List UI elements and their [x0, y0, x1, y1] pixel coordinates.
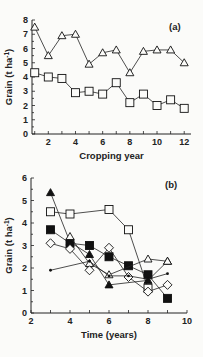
- dot-marker: [147, 278, 150, 281]
- dot-marker: [49, 269, 52, 272]
- y-tick-label: 6: [23, 44, 28, 54]
- square-filled-marker: [164, 294, 172, 302]
- y-tick-label: 2: [22, 263, 27, 273]
- dot-marker: [88, 260, 91, 263]
- series-open-triangle: [66, 233, 172, 278]
- y-axis-label: Grain (t ha-1): [3, 49, 14, 105]
- triangle-open-marker: [167, 46, 175, 53]
- square-open-marker: [139, 90, 147, 98]
- panel-label: (a): [169, 21, 181, 32]
- x-tick-label: 6: [100, 137, 105, 147]
- y-tick-label: 2: [23, 101, 28, 111]
- panel-a-chart: 01234567824681012Cropping yearGrain (t h…: [3, 15, 191, 161]
- triangle-open-marker: [44, 52, 52, 59]
- triangle-open-marker: [85, 60, 93, 67]
- series-line: [35, 27, 184, 73]
- y-tick-label: 5: [22, 196, 27, 206]
- triangle-filled-marker: [47, 189, 55, 196]
- y-tick-label: 3: [22, 241, 27, 251]
- x-axis-label: Cropping year: [79, 150, 144, 161]
- square-open-marker: [105, 206, 113, 214]
- x-tick-label: 6: [106, 316, 111, 326]
- square-open-marker: [126, 99, 134, 107]
- triangle-open-marker: [71, 30, 79, 37]
- y-tick-label: 4: [22, 218, 27, 228]
- square-filled-marker: [86, 242, 94, 250]
- y-tick-label: 0: [23, 129, 28, 139]
- triangle-open-marker: [144, 255, 152, 262]
- square-open-marker: [112, 79, 120, 87]
- square-filled-marker: [47, 226, 55, 234]
- chart-figure: 01234567824681012Cropping yearGrain (t h…: [0, 0, 203, 357]
- y-tick-label: 3: [23, 86, 28, 96]
- x-tick-label: 10: [182, 316, 192, 326]
- square-open-marker: [153, 102, 161, 110]
- square-open-marker: [31, 69, 39, 77]
- y-tick-label: 8: [23, 15, 28, 25]
- series-line: [70, 237, 168, 275]
- triangle-filled-marker: [86, 251, 94, 258]
- series-open-triangle: [31, 23, 188, 76]
- y-tick-label: 1: [22, 286, 27, 296]
- y-tick-label: 1: [23, 115, 28, 125]
- diamond-marker: [46, 239, 55, 248]
- x-tick-label: 4: [67, 316, 72, 326]
- square-open-marker: [167, 96, 175, 104]
- square-open-marker: [58, 74, 66, 82]
- x-tick-label: 2: [28, 316, 33, 326]
- square-open-marker: [85, 87, 93, 95]
- y-tick-label: 0: [22, 308, 27, 318]
- y-tick-label: 4: [23, 72, 28, 82]
- dot-marker: [166, 272, 169, 275]
- diamond-marker: [163, 280, 172, 289]
- panel-b-chart: 0123456246810Time (years)Grain (t ha-1)(…: [3, 173, 192, 340]
- panel-label: (b): [165, 179, 177, 190]
- x-tick-label: 12: [179, 137, 189, 147]
- y-tick-label: 7: [23, 29, 28, 39]
- triangle-open-marker: [112, 46, 120, 53]
- series-open-square: [31, 69, 188, 113]
- square-filled-marker: [105, 253, 113, 261]
- series-filled-square: [47, 226, 172, 303]
- square-open-marker: [180, 104, 188, 112]
- square-open-marker: [44, 73, 52, 81]
- x-tick-label: 4: [73, 137, 78, 147]
- series-line: [35, 73, 184, 109]
- x-axis-label: Time (years): [81, 329, 137, 340]
- dot-marker: [108, 274, 111, 277]
- y-tick-label: 6: [22, 173, 27, 183]
- square-open-marker: [47, 208, 55, 216]
- series-open-square: [47, 206, 153, 293]
- square-open-marker: [125, 226, 133, 234]
- square-open-marker: [71, 89, 79, 97]
- square-open-marker: [66, 210, 74, 218]
- x-tick-label: 8: [145, 316, 150, 326]
- square-open-marker: [99, 90, 107, 98]
- x-tick-label: 8: [127, 137, 132, 147]
- triangle-open-marker: [126, 69, 134, 76]
- x-tick-label: 10: [152, 137, 162, 147]
- x-tick-label: 2: [46, 137, 51, 147]
- dot-marker: [127, 274, 130, 277]
- y-tick-label: 5: [23, 58, 28, 68]
- triangle-open-marker: [153, 46, 161, 53]
- y-axis-label: Grain (t ha-1): [3, 217, 14, 273]
